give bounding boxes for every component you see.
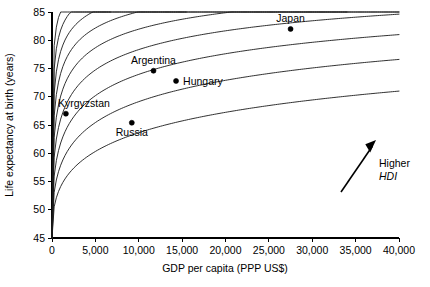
- data-point-label-argentina: Argentina: [131, 54, 176, 66]
- x-tick-label: 0: [49, 244, 55, 256]
- iso-hdi-curve-1: [52, 91, 399, 238]
- y-tick-label: 70: [33, 90, 45, 102]
- hdi-scatter-chart: 455055606570758085 05,00010,00015,00020,…: [0, 0, 430, 287]
- data-point-label-hungary: Hungary: [183, 75, 223, 87]
- higher-hdi-annotation: Higher HDI: [341, 140, 410, 192]
- data-point-group-hungary: Hungary: [174, 75, 224, 87]
- y-tick-label: 85: [33, 6, 45, 18]
- data-point-group-kyrgyzstan: Kyrgyzstan: [58, 97, 110, 117]
- x-axis-title: GDP per capita (PPP US$): [162, 262, 288, 274]
- iso-hdi-curve-3: [52, 35, 399, 238]
- y-tick-label: 60: [33, 147, 45, 159]
- iso-hdi-curve-7: [52, 12, 347, 238]
- data-point-group-japan: Japan: [276, 12, 305, 32]
- x-axis-ticks: 05,00010,00015,00020,00025,00030,00035,0…: [49, 238, 415, 256]
- iso-hdi-curve-4: [52, 14, 399, 238]
- data-point-marker: [174, 78, 179, 83]
- x-tick-label: 15,000: [166, 244, 198, 256]
- data-point-label-russia: Russia: [116, 126, 148, 138]
- x-tick-label: 25,000: [253, 244, 285, 256]
- x-tick-label: 5,000: [82, 244, 108, 256]
- data-point-label-kyrgyzstan: Kyrgyzstan: [58, 97, 110, 109]
- iso-hdi-curves: [52, 12, 399, 238]
- data-point-marker: [288, 26, 293, 31]
- iso-hdi-curve-6: [52, 12, 399, 238]
- higher-hdi-arrow-line: [341, 146, 373, 192]
- data-point-label-japan: Japan: [276, 12, 305, 24]
- axes-group: [52, 12, 399, 238]
- data-point-marker: [63, 111, 68, 116]
- y-tick-label: 75: [33, 62, 45, 74]
- y-tick-label: 65: [33, 119, 45, 131]
- higher-hdi-arrow-head: [365, 140, 376, 152]
- iso-hdi-curve-2: [52, 59, 399, 238]
- y-tick-label: 50: [33, 203, 45, 215]
- x-tick-label: 30,000: [296, 244, 328, 256]
- y-tick-label: 55: [33, 175, 45, 187]
- x-tick-label: 10,000: [123, 244, 155, 256]
- y-tick-label: 80: [33, 34, 45, 46]
- x-tick-label: 35,000: [340, 244, 372, 256]
- data-point-group-argentina: Argentina: [131, 54, 176, 74]
- iso-hdi-curve-5: [52, 12, 399, 238]
- x-tick-label: 40,000: [383, 244, 415, 256]
- data-point-group-russia: Russia: [116, 120, 148, 138]
- y-tick-label: 45: [33, 232, 45, 244]
- y-axis-ticks: 455055606570758085: [33, 6, 52, 244]
- x-tick-label: 20,000: [209, 244, 241, 256]
- data-point-marker: [129, 120, 134, 125]
- data-points-group: KyrgyzstanArgentinaHungaryRussiaJapan: [58, 12, 305, 138]
- data-point-marker: [151, 68, 156, 73]
- higher-hdi-label-line1: Higher: [379, 157, 410, 169]
- chart-container: 455055606570758085 05,00010,00015,00020,…: [0, 0, 430, 287]
- y-axis-title: Life expectancy at birth (years): [3, 53, 15, 197]
- iso-hdi-curve-9: [52, 12, 111, 238]
- higher-hdi-label-line2: HDI: [379, 170, 397, 182]
